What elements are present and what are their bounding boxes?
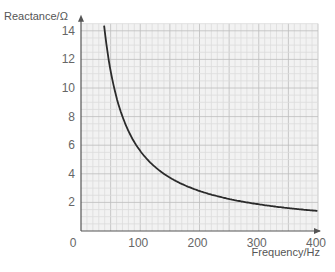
y-tick-label: 12 [62,52,76,66]
y-tick-label: 6 [68,138,75,152]
x-tick-label: 200 [187,236,207,250]
y-tick-label: 8 [68,110,75,124]
x-tick-label: 100 [128,236,148,250]
grid [81,24,318,231]
y-tick-label: 2 [68,195,75,209]
x-tick-label: 0 [70,236,77,250]
y-axis-label: Reactance/Ω [4,10,68,22]
reactance-frequency-chart: 24681012140100200300400 Reactance/Ω Freq… [0,0,335,272]
y-tick-label: 10 [62,81,76,95]
y-tick-label: 14 [62,24,76,38]
x-axis-label: Frequency/Hz [252,246,320,258]
y-tick-label: 4 [68,167,75,181]
